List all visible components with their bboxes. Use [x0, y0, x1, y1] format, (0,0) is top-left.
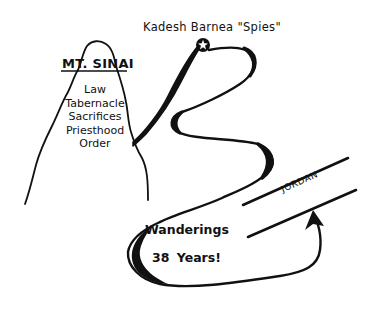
sinai-item-sacrifices: Sacrifices — [55, 110, 135, 124]
route-bulge-left — [172, 112, 182, 133]
route-kadesh-loop — [160, 48, 273, 222]
arrow-head-icon — [305, 210, 324, 230]
sinai-item-order: Order — [55, 137, 135, 151]
sinai-items-list: Law Tabernacle Sacrifices Priesthood Ord… — [55, 83, 135, 151]
sinai-item-priesthood: Priesthood — [55, 124, 135, 138]
kadesh-barnea-label: Kadesh Barnea "Spies" — [143, 22, 281, 34]
sinai-item-law: Law — [55, 83, 135, 97]
sinai-item-tabernacle: Tabernacle — [55, 97, 135, 111]
mt-sinai-title: MT. SINAI — [62, 57, 134, 70]
jordan-bank-lower — [248, 190, 356, 237]
route-bulge-upper-right — [244, 48, 255, 76]
star-icon — [196, 38, 210, 52]
route-bulge-right — [258, 144, 272, 178]
wanderings-years-label: 38 Years! — [152, 252, 221, 265]
route-sinai-to-kadesh — [133, 43, 203, 146]
wanderings-label: Wanderings — [145, 224, 229, 237]
